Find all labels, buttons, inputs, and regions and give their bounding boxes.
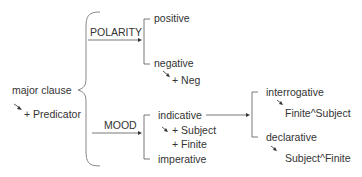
system-name-polarity: POLARITY bbox=[90, 26, 142, 38]
option-imperative: imperative bbox=[158, 153, 206, 165]
realization-neg: + Neg bbox=[172, 74, 200, 86]
arrow-head-icon bbox=[138, 38, 142, 42]
option-indicative: indicative bbox=[158, 109, 202, 121]
realization-subject-finite: Subject^Finite bbox=[285, 152, 351, 164]
option-negative: negative bbox=[154, 57, 194, 69]
option-declarative: declarative bbox=[266, 131, 317, 143]
option-interrogative: interrogative bbox=[266, 86, 324, 98]
root-feature-label: major clause bbox=[12, 84, 72, 96]
realization-subject: + Subject bbox=[172, 124, 216, 136]
option-positive: positive bbox=[154, 12, 190, 24]
root-realization: + Predicator bbox=[24, 108, 81, 120]
realization-finite-subject: Finite^Subject bbox=[285, 107, 351, 119]
system-name-mood: MOOD bbox=[104, 119, 137, 131]
realization-finite: + Finite bbox=[172, 138, 207, 150]
